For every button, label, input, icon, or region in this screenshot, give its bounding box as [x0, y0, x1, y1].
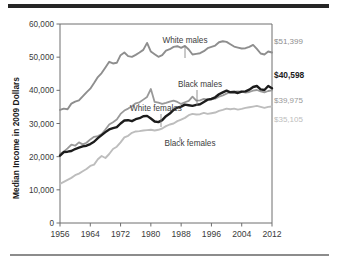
y-tick-label: 40,000: [29, 86, 54, 95]
end-value-label-black-males: $40,598: [274, 70, 305, 80]
x-tick-label: 1964: [81, 229, 100, 239]
end-value-label-white-females: $39,975: [274, 96, 303, 105]
x-tick-label: 1956: [50, 229, 69, 239]
x-tick-label: 1988: [172, 229, 191, 239]
end-value-labels: $51,399$40,598$39,975$35,105: [274, 37, 305, 124]
y-axis-title-text: Median Income in 2009 Dollars: [11, 77, 21, 199]
chart-plot-area: Median Income in 2009 Dollars 010,00020,…: [0, 10, 337, 250]
x-tick-label: 1996: [202, 229, 221, 239]
y-tick-label: 20,000: [29, 153, 54, 162]
y-tick-label: 30,000: [29, 120, 54, 129]
series-annotation-white-males: White males: [162, 36, 207, 45]
x-tick-label: 2004: [232, 229, 251, 239]
end-value-label-black-females: $35,105: [274, 115, 303, 124]
y-tick-label: 60,000: [29, 20, 54, 29]
y-axis-title: Median Income in 2009 Dollars: [11, 77, 21, 199]
series-annotation-black-males: Black males: [178, 80, 222, 89]
figure-container: Median Income in 2009 Dollars 010,00020,…: [0, 0, 337, 263]
end-value-label-white-males: $51,399: [274, 37, 303, 46]
series-annotation-black-females: Black females: [165, 139, 216, 148]
top-divider-rule: [8, 4, 329, 8]
x-tick-label: 1972: [111, 229, 130, 239]
x-tick-label: 1980: [141, 229, 160, 239]
x-tick-label: 2012: [262, 229, 281, 239]
x-axis-ticks: 19561964197219801988199620042012: [50, 223, 281, 239]
y-tick-label: 50,000: [29, 53, 54, 62]
y-tick-label: 0: [49, 219, 54, 228]
series-line-white-males: [60, 41, 272, 110]
y-tick-label: 10,000: [29, 186, 54, 195]
series-annotation-white-females: White females: [130, 104, 182, 113]
y-axis-ticks: 010,00020,00030,00040,00050,00060,000: [29, 20, 60, 228]
line-chart: Median Income in 2009 Dollars 010,00020,…: [0, 10, 337, 250]
bottom-divider-rule: [10, 254, 329, 256]
